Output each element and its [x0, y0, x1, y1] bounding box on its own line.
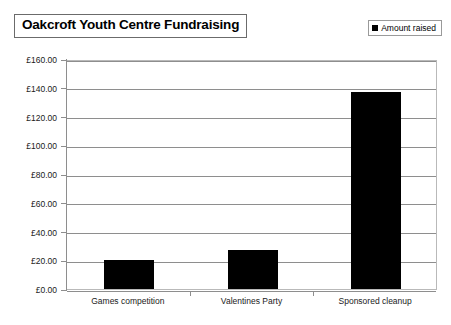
bar: [351, 92, 401, 289]
gridline: [67, 61, 436, 62]
gridline: [67, 291, 436, 292]
y-axis-tick: [61, 232, 66, 233]
x-axis-label: Valentines Party: [221, 296, 282, 306]
x-axis-tick: [313, 291, 314, 296]
plot-area: [66, 60, 437, 290]
y-axis-label: £160.00: [26, 55, 57, 65]
y-axis-tick: [61, 203, 66, 204]
chart-title: Oakcroft Youth Centre Fundraising: [14, 14, 247, 38]
y-axis-tick: [61, 88, 66, 89]
y-axis-tick: [61, 175, 66, 176]
y-axis-tick: [61, 117, 66, 118]
x-axis-label: Sponsored cleanup: [339, 296, 412, 306]
y-axis-tick: [61, 290, 66, 291]
x-axis-label: Games competition: [91, 296, 164, 306]
y-axis-label: £80.00: [31, 170, 57, 180]
y-axis-label: £120.00: [26, 113, 57, 123]
y-axis-tick: [61, 261, 66, 262]
chart-legend: Amount raised: [368, 20, 442, 36]
plot-inner: [67, 61, 436, 289]
bar-chart: Oakcroft Youth Centre Fundraising Amount…: [0, 0, 451, 325]
legend-label-amount-raised: Amount raised: [381, 23, 436, 33]
bar: [228, 250, 278, 289]
y-axis-label: £20.00: [31, 256, 57, 266]
y-axis-line: [66, 59, 67, 291]
gridline: [67, 89, 436, 90]
y-axis-tick: [61, 146, 66, 147]
y-axis-label: £140.00: [26, 84, 57, 94]
y-axis-label: £40.00: [31, 228, 57, 238]
y-axis-label: £100.00: [26, 141, 57, 151]
y-axis-label: £60.00: [31, 199, 57, 209]
y-axis-label: £0.00: [36, 285, 57, 295]
legend-swatch-amount-raised: [372, 25, 378, 31]
y-axis-tick: [61, 60, 66, 61]
bar: [104, 260, 154, 289]
x-axis-tick: [190, 291, 191, 296]
